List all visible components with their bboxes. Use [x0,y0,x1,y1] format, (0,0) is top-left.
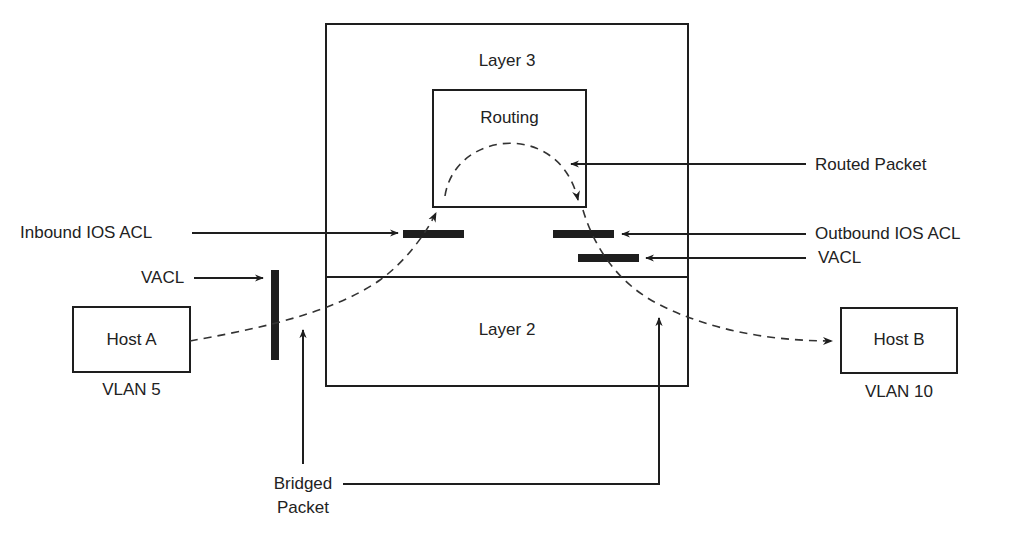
vlan5-label: VLAN 5 [73,380,190,400]
host-a-label: Host A [73,330,190,350]
bridged-packet-label-line2: Packet [255,498,351,518]
host-b-label: Host B [841,330,957,350]
layer2-label: Layer 2 [326,320,688,340]
vlan10-label: VLAN 10 [841,382,957,402]
routing-label: Routing [433,108,586,128]
layer3-label: Layer 3 [326,51,688,71]
diagram-canvas [0,0,1015,534]
inbound-acl-label: Inbound IOS ACL [20,223,152,243]
inbound-acl-bar [403,230,464,238]
outbound-acl-label: Outbound IOS ACL [815,224,961,244]
vacl-left-label: VACL [141,268,184,288]
packet-path-routing-arc [445,143,578,200]
bridged-packet-label-line1: Bridged [255,474,351,494]
vacl-right-label: VACL [818,248,861,268]
vacl-left-bar [271,270,279,360]
routed-packet-label: Routed Packet [815,155,927,175]
bridged-packet-arrow-right [343,318,659,484]
outbound-acl-bar [553,230,614,238]
